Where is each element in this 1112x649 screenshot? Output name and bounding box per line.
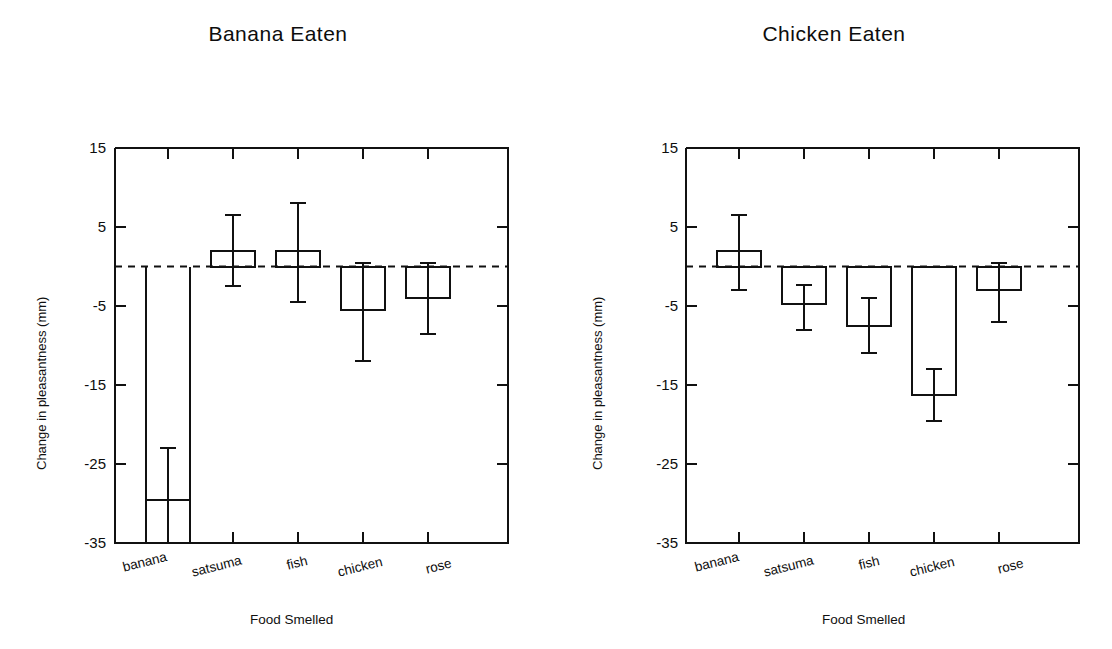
error-bar-right-banana bbox=[731, 215, 747, 290]
plot-area-right bbox=[556, 0, 1112, 649]
y-tick-marks-right bbox=[686, 227, 1079, 464]
axis-frame-left bbox=[115, 148, 508, 543]
error-bar-left-fish bbox=[290, 203, 306, 302]
panel-chicken-eaten: Chicken Eaten Change in pleasantness (mm… bbox=[556, 0, 1112, 649]
axis-frame-right bbox=[686, 148, 1079, 543]
y-tick-marks-left bbox=[115, 227, 508, 464]
figure-canvas: Banana Eaten Change in pleasantness (mm)… bbox=[0, 0, 1112, 649]
error-bar-right-rose bbox=[991, 263, 1007, 322]
plot-area-left bbox=[0, 0, 556, 649]
error-bar-left-banana bbox=[160, 448, 176, 543]
error-bar-left-chicken bbox=[355, 263, 371, 362]
panel-banana-eaten: Banana Eaten Change in pleasantness (mm)… bbox=[0, 0, 556, 649]
error-bar-right-satsuma bbox=[796, 285, 812, 330]
